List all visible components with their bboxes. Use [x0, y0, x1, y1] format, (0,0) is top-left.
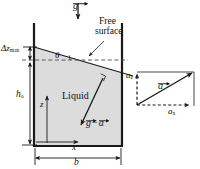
b-width-label: b [74, 158, 79, 168]
acceleration-vector-label: a [158, 81, 163, 92]
free-surface-label-line2: surface [95, 27, 122, 37]
angle-theta-label: θ [55, 51, 59, 60]
g-minus-a-label: g− a [86, 118, 104, 129]
figure-canvas: g Free surface θ Δzmax Liquid ho z x b g… [0, 0, 200, 169]
acceleration-z-label: az [126, 71, 133, 81]
z-axis-label: z [40, 100, 44, 109]
h-o-label: ho [16, 90, 24, 100]
liquid-label: Liquid [62, 91, 89, 102]
delta-z-max-label: Δzmax [1, 44, 19, 54]
free-surface-leader [89, 41, 104, 56]
gravity-vector-label: g [73, 1, 78, 12]
x-axis-label: x [72, 143, 76, 152]
acceleration-x-label: ax [168, 107, 175, 117]
acceleration-vector-diagram [137, 72, 194, 106]
